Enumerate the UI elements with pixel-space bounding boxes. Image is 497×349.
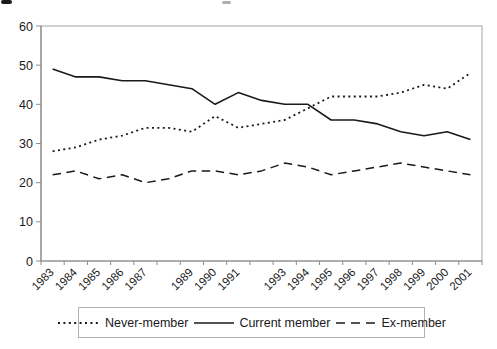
y-tick-label: 10 — [19, 215, 33, 229]
legend-label-never-member: Never-member — [105, 316, 188, 330]
x-tick-label: 1986 — [99, 266, 126, 293]
y-tick-label: 0 — [26, 255, 33, 269]
x-tick-label: 1985 — [76, 266, 103, 293]
y-tick-label: 30 — [19, 137, 33, 151]
x-tick-label: 1994 — [285, 266, 312, 293]
legend-item-ex-member: Ex-member — [335, 316, 446, 330]
x-tick-label: 1999 — [401, 266, 428, 293]
x-tick-label: 1991 — [215, 266, 242, 293]
line-chart: 0102030405060198319841985198619871989199… — [0, 0, 497, 349]
x-tick-label: 1995 — [308, 266, 335, 293]
y-tick-label: 20 — [19, 176, 33, 190]
chart-canvas: 0102030405060198319841985198619871989199… — [0, 0, 497, 349]
x-tick-label: 2001 — [447, 266, 474, 293]
legend-item-never-member: Never-member — [57, 316, 188, 330]
x-tick-label: 1998 — [378, 266, 405, 293]
dotted-line-sample — [57, 319, 101, 327]
x-tick-label: 2000 — [424, 266, 451, 293]
series-line-current-member — [53, 69, 471, 140]
chart-legend: Never-member Current member Ex-member — [78, 307, 425, 338]
solid-line-sample — [193, 319, 235, 327]
x-tick-label: 1984 — [53, 266, 80, 293]
plot-border — [41, 26, 482, 261]
y-tick-label: 40 — [19, 98, 33, 112]
x-tick-label: 1987 — [122, 266, 149, 293]
legend-label-ex-member: Ex-member — [381, 316, 446, 330]
axis-lines — [41, 26, 482, 261]
x-tick-label: 1997 — [354, 266, 381, 293]
x-tick-label: 1989 — [169, 266, 196, 293]
series-line-ex-member — [53, 163, 471, 183]
legend-label-current-member: Current member — [239, 316, 330, 330]
x-tick-label: 1983 — [29, 266, 56, 293]
series-line-never-member — [53, 73, 471, 151]
x-tick-label: 1990 — [192, 266, 219, 293]
x-tick-label: 1996 — [331, 266, 358, 293]
dashed-line-sample — [335, 319, 377, 327]
y-tick-label: 50 — [19, 59, 33, 73]
x-tick-label: 1993 — [262, 266, 289, 293]
y-tick-label: 60 — [19, 20, 33, 34]
legend-item-current-member: Current member — [193, 316, 330, 330]
